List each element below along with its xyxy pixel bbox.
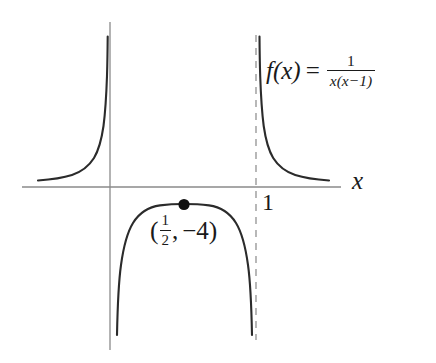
point-label-x-numerator: 1 bbox=[160, 212, 172, 230]
formula-denominator: x(x−1) bbox=[327, 70, 375, 89]
point-label-y-value: −4 bbox=[182, 218, 209, 243]
x-axis-label: x bbox=[352, 168, 363, 193]
point-label-x-denominator: 2 bbox=[160, 230, 172, 249]
formula-denominator-factor: (x−1) bbox=[337, 72, 372, 89]
formula-denominator-variable: x bbox=[330, 72, 337, 89]
maximum-point-label: ( 1 2 , −4 ) bbox=[150, 212, 217, 249]
formula-left-hand-side: f(x) bbox=[266, 58, 301, 83]
point-label-close-paren: ) bbox=[209, 218, 218, 244]
formula-numerator: 1 bbox=[344, 52, 358, 70]
point-label-open-paren: ( bbox=[150, 218, 159, 244]
point-label-x-fraction: 1 2 bbox=[160, 212, 172, 249]
point-label-comma: , bbox=[172, 218, 178, 243]
formula-equals-sign: = bbox=[306, 58, 320, 83]
curve-branch-left bbox=[38, 37, 108, 181]
formula-fraction: 1 x(x−1) bbox=[327, 52, 375, 90]
function-formula-annotation: f(x) = 1 x(x−1) bbox=[266, 52, 375, 90]
function-plot-figure: x 1 f(x) = 1 x(x−1) ( 1 2 , −4 ) bbox=[0, 0, 436, 363]
maximum-point-marker bbox=[178, 199, 189, 210]
x-tick-label-1: 1 bbox=[262, 190, 274, 214]
